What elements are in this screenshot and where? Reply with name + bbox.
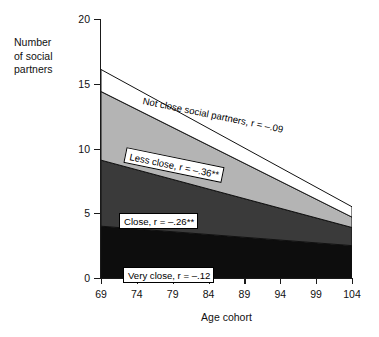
x-tick-label-104: 104	[343, 289, 361, 300]
y-tick-label-5: 5	[84, 208, 90, 219]
y-tick-label-10: 10	[78, 144, 90, 155]
chart-figure: Number of social partners 05101520 69747…	[0, 0, 379, 337]
x-tick-69	[101, 278, 102, 284]
x-tick-label-74: 74	[131, 289, 143, 300]
x-tick-label-99: 99	[310, 289, 322, 300]
plot-area: 05101520 69747984899499104 Not close soc…	[101, 19, 352, 278]
x-tick-104	[352, 278, 353, 284]
y-tick-0	[94, 278, 101, 279]
y-tick-5	[94, 213, 101, 214]
y-axis-title-line-3: partners	[14, 63, 94, 77]
y-axis-title: Number of social partners	[14, 36, 94, 77]
annotation-close: Close, r = –.26**	[119, 213, 198, 229]
y-tick-20	[94, 19, 101, 20]
x-tick-label-84: 84	[203, 289, 215, 300]
x-tick-label-89: 89	[239, 289, 251, 300]
y-axis-title-line-2: of social	[14, 50, 94, 64]
x-tick-label-79: 79	[167, 289, 179, 300]
y-tick-label-20: 20	[78, 14, 90, 25]
y-axis-title-line-1: Number	[14, 36, 94, 50]
annotation-very-close: Very close, r = –.12	[123, 267, 214, 283]
x-axis-title: Age cohort	[101, 311, 352, 323]
x-tick-89	[244, 278, 245, 284]
y-tick-10	[94, 149, 101, 150]
x-tick-99	[316, 278, 317, 284]
stacked-area-series	[101, 19, 352, 278]
y-tick-label-0: 0	[84, 273, 90, 284]
x-tick-label-94: 94	[274, 289, 286, 300]
x-tick-label-69: 69	[95, 289, 107, 300]
x-tick-94	[280, 278, 281, 284]
y-tick-label-15: 15	[78, 79, 90, 90]
y-tick-15	[94, 84, 101, 85]
